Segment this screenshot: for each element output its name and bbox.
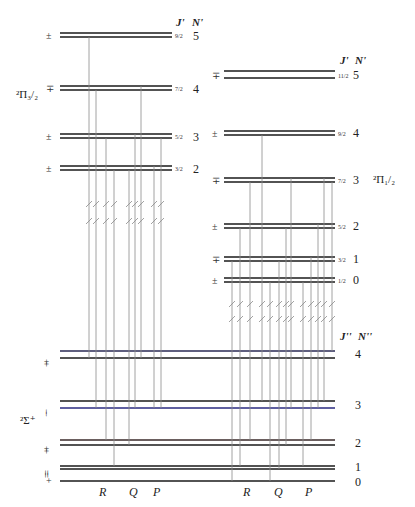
j-label: 11/2: [338, 73, 348, 79]
j-label: 7/2: [338, 178, 346, 184]
n-label: 4: [353, 126, 359, 140]
parity-label: ∓: [212, 175, 220, 186]
j-label: 7/2: [175, 86, 183, 92]
n-label: 2: [353, 219, 359, 233]
n-label: 2: [355, 436, 361, 450]
parity-label: ∓: [212, 70, 220, 81]
n-label: 2: [193, 162, 199, 176]
right-header-n: N': [354, 54, 366, 66]
right-transitions: [229, 135, 335, 481]
n-label: 1: [353, 252, 359, 266]
parity-label: + +: [41, 359, 52, 367]
parity-label: ±: [212, 221, 218, 232]
parity-label: ∓: [46, 83, 54, 94]
parity-label: +: [46, 475, 52, 486]
branch-label-r: R: [98, 485, 107, 499]
left-header-j: J': [175, 16, 185, 28]
sigma-state-label: ²Σ⁺: [20, 414, 36, 426]
branch-label-q: Q: [274, 485, 283, 499]
n-label: 1: [355, 460, 361, 474]
j-label: 3/2: [338, 257, 346, 263]
branch-label-r: R: [242, 485, 251, 499]
parity-label: + +: [41, 446, 52, 454]
j-label: 9/2: [175, 33, 183, 39]
n-label: 3: [355, 398, 361, 412]
n-label: 3: [353, 173, 359, 187]
n-label: 0: [353, 273, 359, 287]
n-label: 0: [355, 475, 361, 489]
n-label: 3: [193, 130, 199, 144]
pi32-levels: [60, 33, 172, 170]
parity-label: ±: [212, 128, 218, 139]
parity-label: ∓: [212, 254, 220, 265]
n-label: 5: [353, 68, 359, 82]
parity-label: ±: [46, 131, 52, 142]
branch-label-p: P: [304, 485, 313, 499]
pi32-state-label: ²Π₃/₂: [16, 88, 38, 100]
branch-label-q: Q: [129, 485, 138, 499]
lower-header-n: N'': [357, 330, 372, 342]
energy-level-diagram: J' N' J' N' J'' N'' ²Π₃/₂ ²Π₁/₂ ²Σ⁺ ± 9/…: [0, 0, 415, 507]
sigma-levels: [60, 351, 335, 481]
j-label: 5/2: [338, 224, 346, 230]
branch-label-p: P: [152, 485, 161, 499]
n-label: 4: [193, 82, 199, 96]
pi12-state-label: ²Π₁/₂: [373, 173, 395, 185]
j-label: 3/2: [175, 166, 183, 172]
lower-header-j: J'': [339, 330, 352, 342]
j-label: 1/2: [338, 278, 346, 284]
parity-label: ±: [46, 30, 52, 41]
parity-label: − −: [41, 409, 52, 417]
j-label: 5/2: [175, 134, 183, 140]
n-label: 4: [355, 347, 361, 361]
left-header-n: N': [191, 16, 203, 28]
j-label: 9/2: [338, 131, 346, 137]
parity-label: ±: [212, 275, 218, 286]
n-label: 5: [193, 29, 199, 43]
right-header-j: J': [339, 54, 349, 66]
parity-label: ±: [46, 163, 52, 174]
